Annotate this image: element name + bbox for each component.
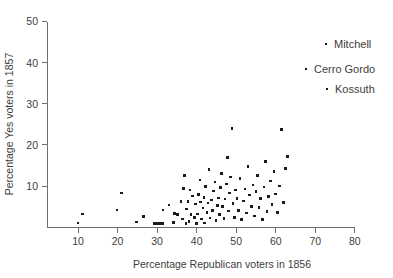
- scatter-point: [196, 213, 199, 216]
- scatter-point: [203, 196, 206, 199]
- scatter-point: [214, 181, 217, 184]
- scatter-point: [156, 222, 159, 225]
- scatter-point: [231, 127, 234, 130]
- scatter-point: [244, 188, 247, 191]
- scatter-point: [223, 217, 226, 220]
- scatter-point: [153, 222, 156, 225]
- annotated-point-marker: [325, 43, 328, 46]
- scatter-point: [219, 186, 222, 189]
- scatter-point: [193, 216, 196, 219]
- scatter-point: [261, 218, 264, 221]
- scatter-point: [258, 206, 261, 209]
- scatter-point: [158, 222, 161, 225]
- x-tick-label: 40: [191, 235, 203, 247]
- scatter-point: [208, 168, 211, 171]
- y-tick-label: 10: [26, 180, 38, 192]
- scatter-point: [282, 201, 285, 204]
- y-tick-label: 20: [26, 139, 38, 151]
- scatter-point: [267, 195, 270, 198]
- x-tick-label: 30: [151, 235, 163, 247]
- scatter-point: [228, 192, 231, 195]
- scatter-point: [206, 211, 209, 214]
- scatter-point: [236, 197, 239, 200]
- x-tick-label: 60: [270, 235, 282, 247]
- scatter-point: [237, 209, 240, 212]
- scatter-point: [273, 170, 276, 173]
- scatter-point: [135, 221, 138, 224]
- scatter-point: [225, 183, 228, 186]
- y-tick-label: 30: [26, 98, 38, 110]
- x-tick-label: 70: [309, 235, 321, 247]
- scatter-point: [245, 212, 248, 215]
- scatter-point: [248, 194, 251, 197]
- scatter-point: [187, 200, 190, 203]
- scatter-point: [253, 215, 256, 218]
- scatter-point: [190, 213, 193, 216]
- scatter-point: [212, 190, 215, 193]
- scatter-point: [240, 218, 243, 221]
- scatter-point: [218, 213, 221, 216]
- y-axis-ticks: 1020304050: [26, 15, 47, 191]
- scatter-point: [199, 201, 202, 204]
- scatter-point: [250, 205, 253, 208]
- scatter-point: [252, 184, 255, 187]
- scatter-point: [286, 155, 289, 158]
- scatter-point: [255, 190, 258, 193]
- scatter-point: [182, 187, 185, 190]
- scatter-point: [216, 204, 219, 207]
- annotation-label: Kossuth: [335, 83, 375, 95]
- scatter-point: [239, 177, 242, 180]
- scatter-point: [264, 160, 267, 163]
- x-tick-label: 50: [230, 235, 242, 247]
- scatter-point: [188, 220, 191, 223]
- scatter-point: [215, 219, 218, 222]
- scatter-point: [210, 199, 213, 202]
- scatter-point: [161, 222, 164, 225]
- scatter-point: [203, 222, 206, 225]
- scatter-point: [227, 210, 230, 213]
- scatter-point: [229, 176, 232, 179]
- scatter-point: [199, 179, 202, 182]
- scatter-point: [224, 198, 227, 201]
- scatter-point: [209, 217, 212, 220]
- scatter-point: [185, 208, 188, 211]
- scatter-point: [185, 222, 188, 225]
- scatter-point: [194, 203, 197, 206]
- scatter-point: [280, 128, 283, 131]
- scatter-point: [195, 222, 198, 225]
- scatter-point: [284, 167, 287, 170]
- x-tick-label: 10: [72, 235, 84, 247]
- scatter-point: [217, 197, 220, 200]
- scatter-point: [207, 202, 210, 205]
- scatter-point: [77, 222, 80, 225]
- annotation-label: Cerro Gordo: [314, 63, 375, 75]
- annotated-point-marker: [305, 68, 308, 71]
- scatter-point: [276, 211, 279, 214]
- scatter-point: [221, 205, 224, 208]
- scatter-plot-figure: 1020304050 1020304050607080 MitchellCerr…: [0, 0, 393, 278]
- scatter-point: [232, 202, 235, 205]
- scatter-point: [181, 218, 184, 221]
- scatter-point: [242, 200, 245, 203]
- scatter-point: [256, 174, 259, 177]
- scatter-point: [204, 185, 207, 188]
- scatter-point: [200, 218, 203, 221]
- y-axis-title: Percentage Yes voters in 1857: [3, 53, 15, 196]
- scatter-point: [226, 156, 229, 159]
- scatter-point: [220, 172, 223, 175]
- scatter-point: [269, 180, 272, 183]
- scatter-point: [120, 192, 123, 195]
- scatter-point: [180, 200, 183, 203]
- x-axis-ticks: 1020304050607080: [72, 228, 361, 247]
- scatter-point: [191, 195, 194, 198]
- y-tick-label: 40: [26, 57, 38, 69]
- y-tick-label: 50: [26, 15, 38, 27]
- scatter-point: [183, 174, 186, 177]
- annotated-point-marker: [326, 88, 329, 91]
- chart-canvas: 1020304050 1020304050607080 MitchellCerr…: [0, 0, 393, 278]
- scatter-point: [234, 189, 237, 192]
- scatter-point: [259, 197, 262, 200]
- scatter-point: [172, 221, 175, 224]
- scatter-point: [173, 212, 176, 215]
- scatter-point: [116, 209, 119, 212]
